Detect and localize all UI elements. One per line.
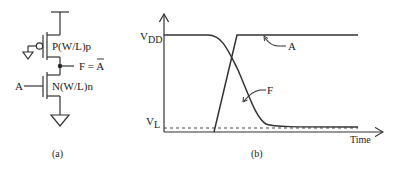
nmos-label: N(W/L)n xyxy=(52,80,93,93)
curve-a xyxy=(214,35,358,132)
waveform-chart: VDD VL Time A F (b) xyxy=(140,14,383,160)
vl-label: VL xyxy=(146,115,160,130)
caption-b: (b) xyxy=(251,148,263,160)
pmos-transistor xyxy=(23,32,60,75)
curve-f-label: F xyxy=(267,84,273,96)
vdd-label: VDD xyxy=(140,30,162,45)
callout-a xyxy=(265,38,286,46)
curve-a-label: A xyxy=(288,40,296,52)
inversion-bubble-icon xyxy=(36,43,42,49)
output-label: F = A xyxy=(79,60,104,72)
input-label: A xyxy=(15,80,23,92)
ground-icon xyxy=(51,115,69,126)
curve-f xyxy=(164,35,358,127)
time-axis-label: Time xyxy=(350,134,371,145)
caption-a: (a) xyxy=(52,148,63,160)
figure: P(W/L)p F = A A N(W/L)n (a) VDD xyxy=(0,0,402,170)
ground-icon xyxy=(23,52,33,59)
cmos-inverter-schematic: P(W/L)p F = A A N(W/L)n (a) xyxy=(15,12,104,160)
pmos-label: P(W/L)p xyxy=(52,40,92,53)
